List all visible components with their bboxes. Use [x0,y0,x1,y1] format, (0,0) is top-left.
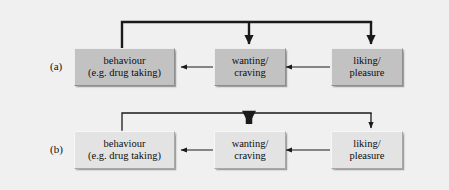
node-b-liking-line2: pleasure [350,150,385,162]
node-a-wanting-line2: craving [234,67,266,79]
node-b-liking[interactable]: liking/ pleasure [331,131,403,169]
feedback-a-trunk [122,22,371,47]
node-b-wanting-line2: craving [234,150,266,162]
node-a-wanting-line1: wanting/ [232,55,269,67]
node-b-liking-line1: liking/ [353,138,380,150]
node-a-wanting[interactable]: wanting/ craving [214,48,286,86]
node-a-behaviour-line2: (e.g. drug taking) [88,67,161,79]
node-a-liking-line2: pleasure [350,67,385,79]
node-a-liking[interactable]: liking/ pleasure [331,48,403,86]
node-b-behaviour-line1: behaviour [104,138,146,150]
node-b-behaviour[interactable]: behaviour (e.g. drug taking) [74,131,175,169]
node-b-wanting[interactable]: wanting/ craving [214,131,286,169]
row-label-a: (a) [50,61,62,72]
figure-panel: (a) behaviour (e.g. drug taking) wanting… [0,0,449,190]
node-b-wanting-line1: wanting/ [232,138,269,150]
node-a-behaviour[interactable]: behaviour (e.g. drug taking) [74,48,175,86]
row-label-b: (b) [50,144,63,155]
node-a-behaviour-line1: behaviour [104,55,146,67]
node-b-behaviour-line2: (e.g. drug taking) [88,150,161,162]
node-a-liking-line1: liking/ [353,55,380,67]
